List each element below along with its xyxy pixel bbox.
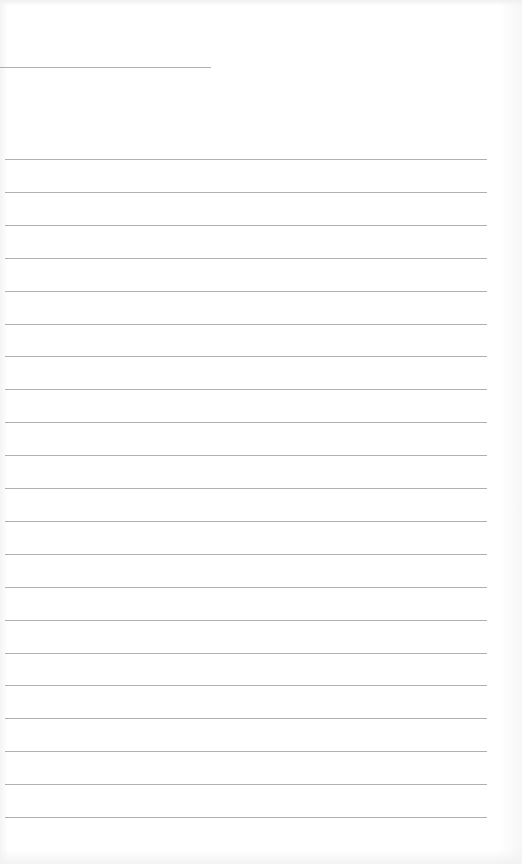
ruled-line [5, 258, 487, 259]
ruled-line [5, 159, 487, 160]
ruled-line [5, 718, 487, 719]
ruled-line [5, 356, 487, 357]
ruled-line [5, 324, 487, 325]
ruled-line [5, 620, 487, 621]
ruled-line [5, 488, 487, 489]
ruled-line [5, 554, 487, 555]
ruled-line [5, 587, 487, 588]
ruled-line [5, 455, 487, 456]
header-name-line [0, 67, 211, 68]
lined-paper-page [0, 0, 522, 864]
ruled-line [5, 653, 487, 654]
ruled-line [5, 817, 487, 818]
ruled-line [5, 225, 487, 226]
ruled-line [5, 291, 487, 292]
ruled-line [5, 389, 487, 390]
ruled-line [5, 521, 487, 522]
ruled-line [5, 751, 487, 752]
page-bottom-edge [0, 850, 522, 864]
ruled-line [5, 192, 487, 193]
ruled-line [5, 784, 487, 785]
ruled-line [5, 422, 487, 423]
page-top-edge [0, 0, 522, 6]
ruled-line [5, 685, 487, 686]
